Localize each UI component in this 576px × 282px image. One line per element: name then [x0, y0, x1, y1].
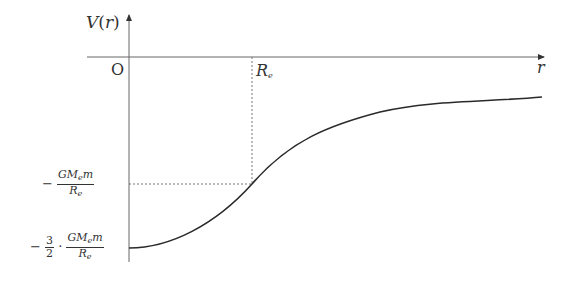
den: R	[79, 247, 87, 260]
three-halves: 3 2	[45, 235, 54, 260]
dot-operator: ·	[58, 239, 62, 254]
num-g: GM	[67, 231, 87, 244]
paren: (	[98, 12, 105, 32]
r-symbol: r	[105, 12, 113, 32]
y-axis-label: V(r)	[86, 12, 120, 32]
den-two: 2	[46, 248, 53, 260]
den-sub: e	[87, 252, 92, 261]
x-axis-label: r	[537, 58, 545, 77]
num-g: GM	[58, 168, 78, 181]
y-tick-label-1: − GMem Re	[42, 169, 94, 200]
minus-sign: −	[42, 176, 53, 191]
v-symbol: V	[86, 12, 98, 32]
re-main: R	[256, 61, 268, 80]
den-sub: e	[77, 189, 82, 198]
paren: )	[113, 12, 120, 32]
y-tick-label-2: − 3 2 · GMem Re	[30, 232, 104, 263]
num-m: m	[83, 168, 93, 181]
re-sub: e	[268, 71, 273, 80]
num-m: m	[92, 231, 102, 244]
fraction: GMem Re	[57, 169, 94, 200]
origin-label: O	[111, 60, 124, 79]
fraction: GMem Re	[66, 232, 103, 263]
minus-sign: −	[30, 239, 41, 254]
potential-curve	[129, 97, 542, 248]
re-tick-label: Re	[256, 61, 273, 80]
